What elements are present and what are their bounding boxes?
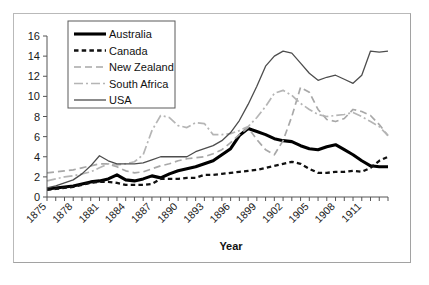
x-tick-label: 1881 bbox=[76, 200, 101, 225]
legend-label-south-africa: South Africa bbox=[109, 78, 169, 90]
y-tick-label: 12 bbox=[28, 70, 40, 82]
x-tick-label: 1902 bbox=[259, 200, 284, 225]
series-line-canada bbox=[47, 157, 388, 190]
legend-label-canada: Canada bbox=[109, 45, 148, 57]
legend-label-australia: Australia bbox=[109, 28, 153, 40]
y-tick-label: 2 bbox=[34, 171, 40, 183]
x-tick-label: 1893 bbox=[181, 200, 206, 225]
chart-legend: AustraliaCanadaNew ZealandSouth AfricaUS… bbox=[68, 21, 175, 108]
series-line-australia bbox=[47, 129, 388, 189]
y-tick-label: 10 bbox=[28, 90, 40, 102]
y-tick-label: 14 bbox=[28, 50, 40, 62]
x-tick-label: 1890 bbox=[155, 200, 180, 225]
y-tick-label: 6 bbox=[34, 131, 40, 143]
x-tick-label: 1884 bbox=[102, 200, 127, 225]
x-tick-label: 1899 bbox=[233, 200, 258, 225]
y-tick-label: 4 bbox=[34, 151, 40, 163]
x-tick-label: 1905 bbox=[286, 200, 311, 225]
y-tick-label: 8 bbox=[34, 111, 40, 123]
x-axis-title: Year bbox=[219, 240, 243, 252]
x-tick-label: 1896 bbox=[207, 200, 232, 225]
x-tick-label: 1887 bbox=[128, 200, 153, 225]
legend-label-new-zealand: New Zealand bbox=[109, 61, 174, 73]
x-tick-label: 1908 bbox=[312, 200, 337, 225]
x-tick-label: 1875 bbox=[23, 200, 48, 225]
x-tick-label: 1911 bbox=[339, 200, 364, 225]
x-axis: 1875187818811884188718901893189618991902… bbox=[23, 197, 388, 225]
x-tick-label: 1878 bbox=[50, 200, 75, 225]
y-tick-label: 16 bbox=[28, 30, 40, 42]
figure: 0246810121416 18751878188118841887189018… bbox=[0, 0, 429, 285]
legend-label-usa: USA bbox=[109, 94, 132, 106]
line-chart: 0246810121416 18751878188118841887189018… bbox=[0, 0, 429, 285]
y-axis: 0246810121416 bbox=[28, 30, 47, 203]
